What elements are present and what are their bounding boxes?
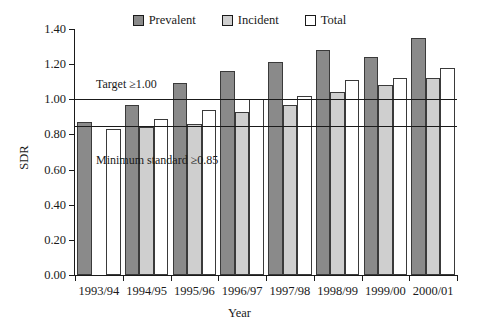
x-tick-mark bbox=[362, 275, 363, 281]
plot-area bbox=[75, 29, 457, 275]
x-tick-mark bbox=[123, 275, 124, 281]
y-tick-label: 0.60 bbox=[0, 165, 66, 175]
reference-line-minimum-standard bbox=[75, 126, 457, 127]
bar-prevalent-1999-00 bbox=[364, 57, 379, 275]
bar-total-1994-95 bbox=[154, 119, 169, 275]
bar-total-1997-98 bbox=[297, 96, 312, 275]
bar-total-1995-96 bbox=[202, 110, 217, 275]
legend-swatch-total bbox=[305, 15, 316, 26]
x-tick-mark bbox=[314, 275, 315, 281]
x-tick-mark bbox=[266, 275, 267, 281]
bar-incident-1994-95 bbox=[139, 127, 154, 275]
annotation-target: Target ≥1.00 bbox=[96, 78, 157, 90]
bar-total-1999-00 bbox=[393, 78, 408, 275]
bar-incident-1995-96 bbox=[187, 124, 202, 275]
x-tick-mark bbox=[75, 275, 76, 281]
y-tick-label: 1.00 bbox=[0, 94, 66, 104]
bar-incident-1999-00 bbox=[378, 85, 393, 275]
x-axis-title: Year bbox=[0, 306, 479, 321]
y-tick-label: 0.20 bbox=[0, 235, 66, 245]
chart-legend: Prevalent Incident Total bbox=[0, 11, 479, 29]
legend-label-prevalent: Prevalent bbox=[149, 14, 196, 26]
legend-swatch-prevalent bbox=[133, 15, 144, 26]
y-tick-label: 0.00 bbox=[0, 270, 66, 280]
y-tick-label: 0.40 bbox=[0, 200, 66, 210]
legend-item-prevalent: Prevalent bbox=[133, 14, 196, 26]
bar-prevalent-2000-01 bbox=[411, 38, 426, 275]
x-tick-mark bbox=[171, 275, 172, 281]
bar-prevalent-1994-95 bbox=[125, 105, 140, 275]
bar-prevalent-1997-98 bbox=[268, 62, 283, 275]
bar-prevalent-1998-99 bbox=[316, 50, 331, 275]
legend-swatch-incident bbox=[222, 15, 233, 26]
bar-incident-2000-01 bbox=[426, 78, 441, 275]
x-tick-label-2000-01: 2000/01 bbox=[403, 285, 463, 298]
bar-prevalent-1996-97 bbox=[220, 71, 235, 275]
bar-prevalent-1993-94 bbox=[77, 122, 92, 275]
x-tick-mark bbox=[457, 275, 458, 281]
sdr-bar-chart: Prevalent Incident Total SDR 0.000.200.4… bbox=[0, 0, 479, 327]
y-tick-label: 1.40 bbox=[0, 24, 66, 34]
legend-label-incident: Incident bbox=[238, 14, 279, 26]
bar-incident-1998-99 bbox=[330, 92, 345, 275]
bar-prevalent-1995-96 bbox=[173, 83, 188, 275]
x-tick-mark bbox=[218, 275, 219, 281]
reference-line-target bbox=[75, 99, 457, 100]
legend-label-total: Total bbox=[321, 14, 347, 26]
y-tick-label: 0.80 bbox=[0, 129, 66, 139]
legend-item-incident: Incident bbox=[222, 14, 279, 26]
x-tick-mark bbox=[409, 275, 410, 281]
bar-incident-1997-98 bbox=[283, 105, 298, 275]
annotation-minimum-standard: Minimum standard ≥0.85 bbox=[96, 154, 218, 166]
bar-incident-1996-97 bbox=[235, 112, 250, 275]
bar-total-1993-94 bbox=[106, 129, 121, 275]
y-tick-label: 1.20 bbox=[0, 59, 66, 69]
legend-item-total: Total bbox=[305, 14, 347, 26]
bar-total-1998-99 bbox=[345, 80, 360, 275]
